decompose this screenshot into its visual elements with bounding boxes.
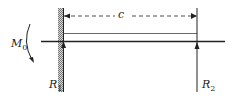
moment-arrow-icon [26, 24, 34, 63]
reaction-r2-arrow-icon [195, 42, 200, 49]
reaction-r1-label: R1 [49, 79, 62, 93]
dimension-c [64, 14, 196, 19]
reaction-r2-label: R2 [202, 79, 215, 93]
span-label: c [118, 9, 124, 20]
moment-label: M0 [11, 38, 27, 52]
beam-diagram [0, 0, 230, 99]
dimension-arrow-left-icon [64, 14, 70, 19]
